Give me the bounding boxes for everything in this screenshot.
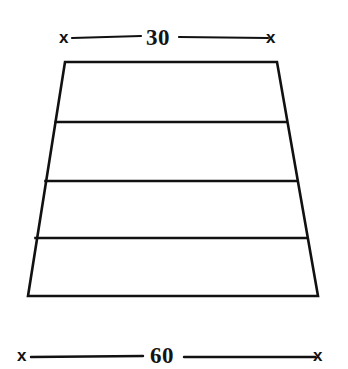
bottom-dimension-left-x-marker-icon: x (17, 347, 26, 364)
bottom-dimension-label: 60 (150, 344, 174, 367)
trapezoid-outline (28, 62, 318, 296)
trapezoid-diagram-svg (0, 0, 348, 369)
bottom-dimension-right-x-marker-icon: x (313, 347, 322, 364)
bottom-dimension-line-left-segment (31, 356, 143, 357)
geometry-figure: x x x x 30 60 (0, 0, 348, 369)
top-dimension-line-right-segment (179, 37, 268, 38)
top-dimension-left-x-marker-icon: x (59, 29, 68, 46)
top-dimension-right-x-marker-icon: x (266, 29, 275, 46)
top-dimension-label: 30 (146, 26, 170, 49)
